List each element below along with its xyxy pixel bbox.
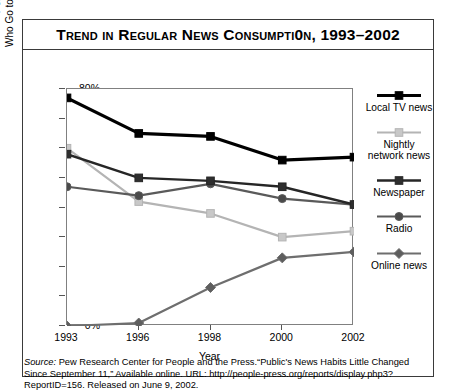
- data-point: [278, 183, 286, 191]
- data-point: [350, 153, 354, 161]
- figure-panel: Trend in Regular News Consumpti0n, 1993–…: [22, 19, 434, 377]
- legend-item[interactable]: Radio: [363, 209, 435, 235]
- x-tick-label: 1993: [36, 331, 96, 343]
- legend-marker-icon: [369, 209, 429, 222]
- y-tick-mark: [59, 207, 65, 208]
- data-point: [207, 210, 215, 218]
- y-tick-mark: [59, 88, 65, 89]
- y-tick-mark: [59, 236, 65, 237]
- data-point: [67, 321, 72, 326]
- y-tick-mark: [59, 177, 65, 178]
- source-note: Source: Pew Research Center for People a…: [24, 357, 434, 391]
- y-tick-mark: [59, 147, 65, 148]
- legend-label: Nightly network news: [363, 139, 435, 162]
- legend-marker-icon: [369, 173, 429, 186]
- chart-title: Trend in Regular News Consumpti0n, 1993–…: [23, 26, 433, 44]
- legend-label: Online news: [363, 260, 435, 272]
- title-bar: Trend in Regular News Consumpti0n, 1993–…: [23, 20, 433, 50]
- legend-marker-icon: [369, 88, 429, 101]
- data-point: [135, 192, 143, 200]
- x-tick-label: 2000: [251, 331, 311, 343]
- x-tick-label: 2002: [323, 331, 383, 343]
- legend-label: Newspaper: [363, 187, 435, 199]
- data-point: [135, 130, 143, 138]
- legend-marker-icon: [369, 125, 429, 138]
- y-tick-mark: [59, 325, 65, 326]
- data-point: [206, 282, 216, 292]
- legend-item[interactable]: Nightly network news: [363, 125, 435, 162]
- y-tick-mark: [59, 295, 65, 296]
- data-point: [67, 183, 71, 191]
- data-point: [67, 94, 71, 102]
- data-point: [135, 174, 143, 182]
- legend-item[interactable]: Local TV news: [363, 88, 435, 114]
- data-point: [350, 201, 354, 209]
- y-tick-mark: [59, 266, 65, 267]
- y-axis-label: Percentage of Adults Who Go to These Sou…: [0, 0, 21, 87]
- data-point: [134, 318, 144, 326]
- data-point: [349, 247, 354, 257]
- legend-marker-icon: [369, 246, 429, 259]
- data-point: [278, 233, 286, 241]
- legend-label: Radio: [363, 223, 435, 235]
- legend-label: Local TV news: [363, 102, 435, 114]
- data-point: [207, 133, 215, 141]
- x-tick-label: 1996: [108, 331, 168, 343]
- legend-item[interactable]: Newspaper: [363, 173, 435, 199]
- data-point: [67, 150, 71, 158]
- series-line: [67, 98, 354, 160]
- data-point: [277, 253, 287, 263]
- source-text: Pew Research Center for People and the P…: [24, 357, 409, 390]
- source-label: Source:: [24, 357, 56, 367]
- legend: Local TV newsNightly network newsNewspap…: [363, 88, 435, 282]
- data-point: [278, 156, 286, 164]
- data-point: [350, 227, 354, 235]
- y-tick-mark: [59, 118, 65, 119]
- plot-wrapper: Percentage of Adults Who Go to These Sou…: [23, 51, 435, 377]
- data-point: [207, 177, 215, 185]
- plot-area: [66, 88, 353, 325]
- data-point: [278, 195, 286, 203]
- series-lines: [67, 89, 354, 326]
- x-tick-label: 1998: [180, 331, 240, 343]
- legend-item[interactable]: Online news: [363, 246, 435, 272]
